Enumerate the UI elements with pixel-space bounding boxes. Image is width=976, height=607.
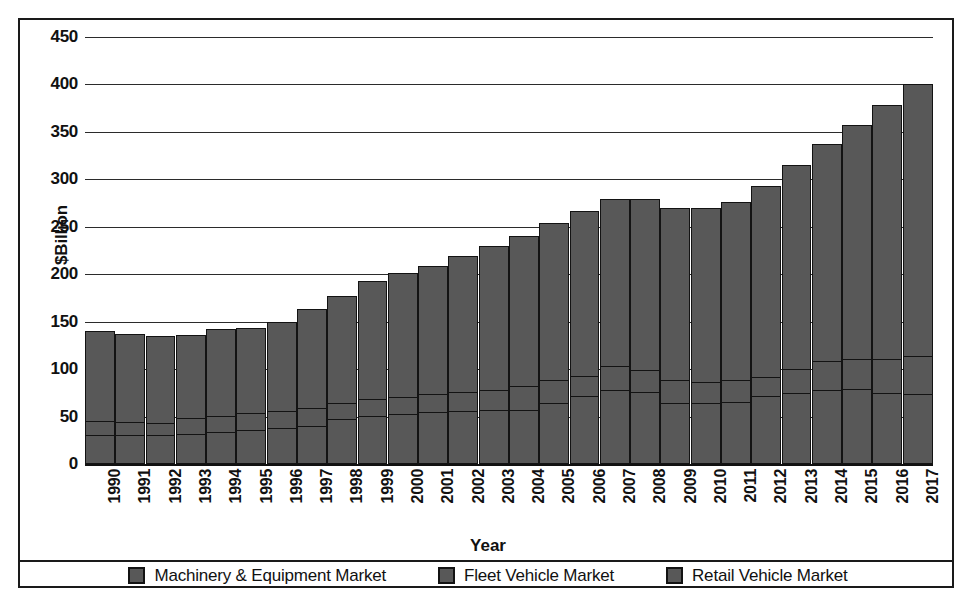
bar-1992[interactable]: [146, 37, 176, 464]
x-tick-label-1997: 1997: [318, 469, 336, 503]
bar-segment: [236, 429, 266, 464]
bar-2013[interactable]: [782, 37, 812, 464]
bar-segment: [872, 105, 902, 360]
bar-segment: [297, 425, 327, 464]
bar-segment: [903, 393, 933, 464]
bar-segment: [721, 380, 751, 404]
bar-2016[interactable]: [872, 37, 902, 464]
bar-1990[interactable]: [85, 37, 115, 464]
bar-segment: [297, 309, 327, 409]
bar-segment: [358, 415, 388, 464]
x-tick-label-2003: 2003: [500, 469, 518, 503]
bar-2008[interactable]: [630, 37, 660, 464]
bar-segment: [146, 422, 176, 436]
chart-legend: Machinery & Equipment MarketFleet Vehicl…: [20, 563, 956, 588]
legend-label: Retail Vehicle Market: [692, 566, 847, 586]
bar-1995[interactable]: [236, 37, 266, 464]
y-tick-label-50: 50: [60, 407, 78, 427]
legend-item-0[interactable]: Machinery & Equipment Market: [128, 566, 386, 586]
bar-segment: [509, 385, 539, 410]
bar-1997[interactable]: [297, 37, 327, 464]
bar-segment: [570, 211, 600, 377]
bar-2004[interactable]: [509, 37, 539, 464]
x-tick-label-2016: 2016: [894, 469, 912, 503]
bar-segment: [327, 296, 357, 404]
bar-1996[interactable]: [267, 37, 297, 464]
bar-2011[interactable]: [721, 37, 751, 464]
bar-1993[interactable]: [176, 37, 206, 464]
bar-segment: [630, 199, 660, 372]
x-axis-tick-labels: 1990199119921993199419951996199719981999…: [85, 469, 933, 535]
bar-segment: [115, 435, 145, 464]
bar-segment: [206, 329, 236, 416]
bar-1999[interactable]: [358, 37, 388, 464]
bar-2007[interactable]: [600, 37, 630, 464]
bar-segment: [570, 375, 600, 397]
bar-2006[interactable]: [570, 37, 600, 464]
y-tick-label-0: 0: [69, 454, 78, 474]
bar-segment: [570, 395, 600, 464]
bar-2015[interactable]: [842, 37, 872, 464]
bar-segment: [146, 435, 176, 464]
bar-segment: [842, 388, 872, 464]
x-tick-label-2008: 2008: [651, 469, 669, 503]
x-tick-label-1992: 1992: [167, 469, 185, 503]
x-tick-label-2014: 2014: [833, 469, 851, 503]
bar-2012[interactable]: [751, 37, 781, 464]
bar-segment: [236, 328, 266, 414]
bar-2001[interactable]: [418, 37, 448, 464]
bar-segment: [206, 415, 236, 433]
bar-segment: [539, 379, 569, 404]
x-tick-label-2011: 2011: [742, 469, 760, 503]
bar-segment: [751, 395, 781, 464]
bar-segment: [812, 361, 842, 391]
bar-segment: [418, 411, 448, 464]
bar-2005[interactable]: [539, 37, 569, 464]
bar-segment: [812, 389, 842, 464]
bar-segment: [85, 421, 115, 436]
bar-segment: [297, 407, 327, 427]
y-tick-label-200: 200: [51, 264, 78, 284]
bar-2003[interactable]: [479, 37, 509, 464]
legend-swatch-icon: [666, 567, 683, 584]
bar-segment: [751, 186, 781, 377]
x-tick-label-2001: 2001: [439, 469, 457, 503]
bar-segment: [903, 84, 933, 357]
bar-segment: [327, 403, 357, 421]
x-tick-label-2006: 2006: [591, 469, 609, 503]
bar-1998[interactable]: [327, 37, 357, 464]
chart-figure: $Billion 050100150200250300350400450 199…: [18, 18, 954, 588]
y-tick-label-400: 400: [51, 74, 78, 94]
bar-segment: [448, 410, 478, 464]
bar-segment: [115, 334, 145, 423]
bar-segment: [206, 431, 236, 464]
bar-segment: [418, 266, 448, 395]
bar-segment: [448, 391, 478, 412]
gridline-0: [85, 464, 933, 466]
bar-segment: [812, 144, 842, 362]
legend-item-1[interactable]: Fleet Vehicle Market: [438, 566, 614, 586]
x-tick-label-1993: 1993: [197, 469, 215, 503]
bar-2010[interactable]: [691, 37, 721, 464]
bar-2009[interactable]: [660, 37, 690, 464]
bar-2000[interactable]: [388, 37, 418, 464]
legend-item-2[interactable]: Retail Vehicle Market: [666, 566, 847, 586]
x-tick-label-1999: 1999: [379, 469, 397, 503]
bar-1994[interactable]: [206, 37, 236, 464]
bar-series-group: [85, 37, 933, 464]
bar-2002[interactable]: [448, 37, 478, 464]
x-tick-label-2005: 2005: [560, 469, 578, 503]
y-tick-label-350: 350: [51, 122, 78, 142]
bar-segment: [600, 389, 630, 464]
bar-segment: [479, 389, 509, 411]
x-tick-label-1998: 1998: [348, 469, 366, 503]
x-tick-label-1996: 1996: [288, 469, 306, 503]
bar-segment: [782, 368, 812, 393]
bar-2014[interactable]: [812, 37, 842, 464]
bar-segment: [721, 402, 751, 464]
legend-label: Fleet Vehicle Market: [464, 566, 614, 586]
x-axis-title: Year: [20, 536, 956, 556]
bar-2017[interactable]: [903, 37, 933, 464]
bar-1991[interactable]: [115, 37, 145, 464]
bar-segment: [660, 379, 690, 404]
